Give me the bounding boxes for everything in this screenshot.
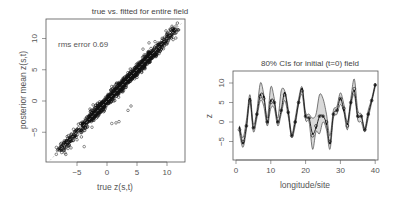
left-x-tick-label: 0 [105, 168, 110, 177]
left-y-tick-label: 0 [30, 98, 39, 103]
right-x-axis-label: longitude/site [280, 180, 330, 190]
right-y-tick-label: 0 [217, 119, 226, 124]
figure: true vs. fitted for entire field rms err… [0, 0, 396, 201]
left-y-tick-label: 10 [30, 34, 39, 43]
ci-band-area [239, 79, 375, 150]
left-x-axis: −50510 [72, 162, 172, 177]
left-x-tick-label: 10 [163, 168, 172, 177]
left-chart-title: true vs. fitted for entire field [92, 7, 189, 16]
left-x-tick-label: −5 [72, 168, 82, 177]
right-chart-title: 80% CIs for initial (t=0) field [261, 59, 359, 68]
right-x-tick-label: 40 [371, 166, 380, 175]
ci-line-plot: 80% CIs for initial (t=0) field 01020304… [204, 59, 380, 190]
right-y-tick-label: 10 [217, 78, 226, 87]
right-x-tick-label: 0 [234, 166, 239, 175]
left-y-tick-label: 5 [30, 67, 39, 72]
rms-error-annotation: rms error 0.69 [58, 40, 109, 49]
left-x-axis-label: true z(s,t) [97, 182, 133, 192]
left-y-axis: −50510 [30, 34, 46, 137]
left-y-axis-label: posterior mean z(s,t) [18, 51, 28, 129]
right-y-axis: −50510 [217, 78, 233, 146]
right-y-tick-label: −5 [217, 136, 226, 146]
right-x-axis: 010203040 [234, 160, 380, 175]
right-x-tick-label: 30 [336, 166, 345, 175]
right-x-tick-label: 10 [266, 166, 275, 175]
left-y-tick-label: −5 [30, 127, 39, 137]
right-y-tick-label: 5 [217, 100, 226, 105]
left-x-tick-label: 5 [135, 168, 140, 177]
right-y-axis-label: z [204, 114, 214, 118]
scatter-plot-true-vs-fitted: true vs. fitted for entire field rms err… [18, 7, 188, 192]
right-x-tick-label: 20 [301, 166, 310, 175]
